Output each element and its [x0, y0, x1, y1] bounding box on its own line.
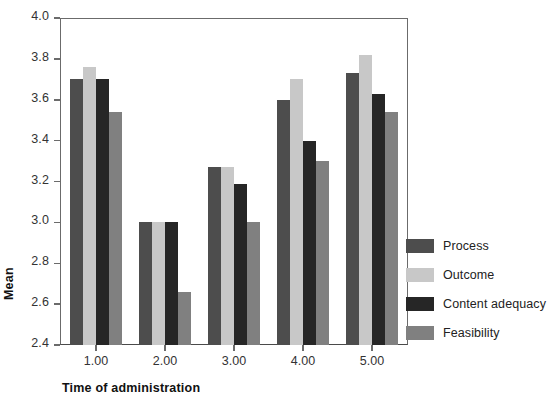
bar-content-adequacy[interactable]: [165, 222, 178, 345]
bar-group: [269, 18, 338, 345]
y-axis-tick-label: 2.4: [31, 336, 49, 350]
bar-group: [131, 18, 200, 345]
y-axis-title: Mean: [2, 267, 16, 300]
x-axis-tick: 1.00: [62, 345, 131, 371]
y-axis-tick-mark: [54, 99, 60, 101]
x-axis-tick-mark: [302, 345, 304, 351]
x-axis-tick: 5.00: [338, 345, 407, 371]
bar-outcome[interactable]: [83, 67, 96, 345]
x-axis-tick-label: 4.00: [269, 354, 338, 368]
x-axis-tick-label: 2.00: [131, 354, 200, 368]
legend-swatch: [406, 326, 434, 340]
legend-swatch: [406, 268, 434, 282]
y-axis-tick-mark: [54, 344, 60, 346]
x-axis-tick-label: 5.00: [338, 354, 407, 368]
bar-content-adequacy[interactable]: [96, 79, 109, 345]
bar-group: [62, 18, 131, 345]
bars-layer: [62, 18, 407, 345]
bar-feasibility[interactable]: [247, 222, 260, 345]
y-axis-tick-label: 3.4: [31, 132, 49, 146]
bar-group: [338, 18, 407, 345]
y-axis-tick-label: 3.0: [31, 213, 49, 227]
x-axis-tick-label: 3.00: [200, 354, 269, 368]
legend-swatch: [406, 297, 434, 311]
y-axis-tick-label: 3.2: [31, 173, 49, 187]
bar-feasibility[interactable]: [316, 161, 329, 345]
bar-feasibility[interactable]: [178, 292, 191, 345]
bar-process[interactable]: [139, 222, 152, 345]
y-axis-tick-label: 2.6: [31, 295, 49, 309]
bar-content-adequacy[interactable]: [303, 141, 316, 345]
legend-item[interactable]: Feasibility: [406, 318, 546, 347]
y-axis-tick-mark: [54, 58, 60, 60]
y-axis-tick-label: 4.0: [31, 9, 49, 23]
bar-outcome[interactable]: [290, 79, 303, 345]
bar-process[interactable]: [70, 79, 83, 345]
x-axis-tick: 2.00: [131, 345, 200, 371]
legend-label: Outcome: [443, 268, 494, 282]
bar-content-adequacy[interactable]: [234, 184, 247, 345]
y-axis-tick-mark: [54, 140, 60, 142]
legend-item[interactable]: Content adequacy: [406, 289, 546, 318]
y-axis-tick-mark: [54, 263, 60, 265]
legend-item[interactable]: Outcome: [406, 260, 546, 289]
bar-outcome[interactable]: [221, 167, 234, 345]
bar-content-adequacy[interactable]: [372, 94, 385, 345]
bar-group: [200, 18, 269, 345]
y-axis-tick-label: 3.6: [31, 91, 49, 105]
y-axis-tick-mark: [54, 222, 60, 224]
y-axis-tick-mark: [54, 17, 60, 19]
bar-feasibility[interactable]: [109, 112, 122, 345]
chart-legend: ProcessOutcomeContent adequacyFeasibilit…: [406, 231, 546, 347]
x-axis-tick-label: 1.00: [62, 354, 131, 368]
y-axis-tick-mark: [54, 303, 60, 305]
legend-label: Content adequacy: [443, 297, 546, 311]
x-axis-tick: 3.00: [200, 345, 269, 371]
legend-swatch: [406, 239, 434, 253]
x-axis-tick-mark: [371, 345, 373, 351]
y-axis-tick-label: 3.8: [31, 50, 49, 64]
bar-process[interactable]: [346, 73, 359, 345]
bar-chart-figure: 4.03.83.63.43.23.02.82.62.4 Mean 1.002.0…: [0, 0, 547, 407]
bar-outcome[interactable]: [152, 222, 165, 345]
x-axis-tick-mark: [233, 345, 235, 351]
bar-feasibility[interactable]: [385, 112, 398, 345]
legend-label: Process: [443, 239, 489, 253]
y-axis-tick-mark: [54, 181, 60, 183]
y-axis-tick-label: 2.8: [31, 254, 49, 268]
x-axis: 1.002.003.004.005.00: [62, 345, 407, 371]
x-axis-tick-mark: [164, 345, 166, 351]
bar-process[interactable]: [277, 100, 290, 345]
bar-process[interactable]: [208, 167, 221, 345]
bar-outcome[interactable]: [359, 55, 372, 345]
x-axis-tick-mark: [95, 345, 97, 351]
x-axis-tick: 4.00: [269, 345, 338, 371]
x-axis-title: Time of administration: [62, 381, 200, 395]
legend-label: Feasibility: [443, 326, 500, 340]
legend-item[interactable]: Process: [406, 231, 546, 260]
